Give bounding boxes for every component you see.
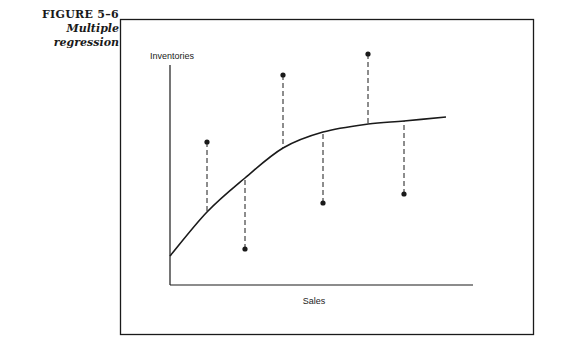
chart: Inventories Sales (0, 0, 561, 353)
data-point (242, 246, 247, 251)
data-point (280, 72, 285, 77)
data-points (204, 51, 406, 251)
data-point (365, 51, 370, 56)
residual-lines (207, 54, 404, 249)
data-point (401, 191, 406, 196)
regression-curve (170, 117, 446, 256)
figure-frame (121, 20, 534, 335)
data-point (320, 200, 325, 205)
data-point (204, 139, 209, 144)
x-axis-label: Sales (303, 296, 326, 306)
y-axis-label: Inventories (150, 51, 195, 61)
